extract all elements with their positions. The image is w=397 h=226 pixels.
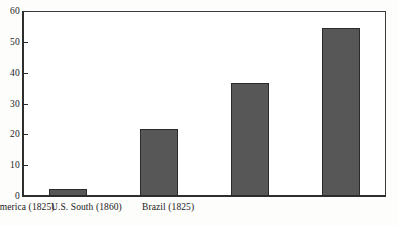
bar	[322, 28, 360, 196]
x-axis-labels: U.S. North (1860)Spanish America (1825)U…	[0, 201, 397, 217]
y-axis-tick	[24, 196, 28, 197]
bar	[140, 129, 178, 196]
y-axis-tick-label: 50	[2, 37, 20, 47]
bar-chart-figure: 0102030405060 U.S. North (1860)Spanish A…	[0, 0, 397, 226]
y-axis-tick-label: 30	[2, 99, 20, 109]
y-axis-tick-label: 20	[2, 129, 20, 139]
y-axis-tick-label: 60	[2, 6, 20, 16]
x-axis-category-label: Brazil (1825)	[142, 201, 194, 214]
y-axis-tick-label: 0	[2, 191, 20, 201]
bars-layer	[22, 11, 386, 196]
y-axis-tick-label: 40	[2, 68, 20, 78]
bar	[49, 189, 87, 196]
bar	[231, 83, 269, 196]
x-axis-category-label: U.S. South (1860)	[51, 201, 122, 214]
x-axis-category-label: Spanish America (1825)	[0, 201, 55, 214]
y-axis-tick-label: 10	[2, 160, 20, 170]
